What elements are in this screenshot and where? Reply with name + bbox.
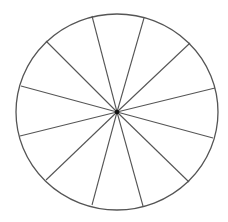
spoke-line-3 bbox=[117, 43, 190, 112]
spoke-line-4 bbox=[117, 88, 215, 112]
spoke-line-6 bbox=[117, 112, 189, 182]
spoke-line-12 bbox=[46, 41, 117, 112]
spoke-line-2 bbox=[117, 18, 144, 112]
spoke-line-7 bbox=[117, 112, 143, 206]
spoke-line-5 bbox=[117, 112, 213, 138]
spoke-line-8 bbox=[92, 112, 117, 205]
spoke-line-1 bbox=[92, 16, 117, 112]
spoke-line-10 bbox=[20, 112, 117, 136]
sector-circle-diagram bbox=[0, 0, 228, 222]
spoke-line-11 bbox=[21, 86, 117, 112]
spoke-line-9 bbox=[46, 112, 117, 180]
center-point bbox=[115, 110, 119, 114]
